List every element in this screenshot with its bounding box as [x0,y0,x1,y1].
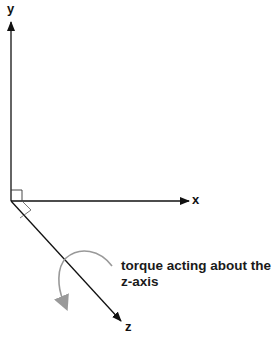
torque-annotation-line2: z-axis [121,274,271,290]
z-axis-label: z [125,320,132,333]
torque-annotation-line1: torque acting about the [121,258,271,274]
z-axis [11,201,121,321]
right-angle-marker-xy [11,190,22,201]
torque-annotation: torque acting about the z-axis [121,258,271,290]
right-angle-marker-xz [20,201,31,218]
x-axis-label: x [192,193,199,206]
torque-rotation-arrow [59,251,112,300]
y-axis-label: y [7,2,14,15]
